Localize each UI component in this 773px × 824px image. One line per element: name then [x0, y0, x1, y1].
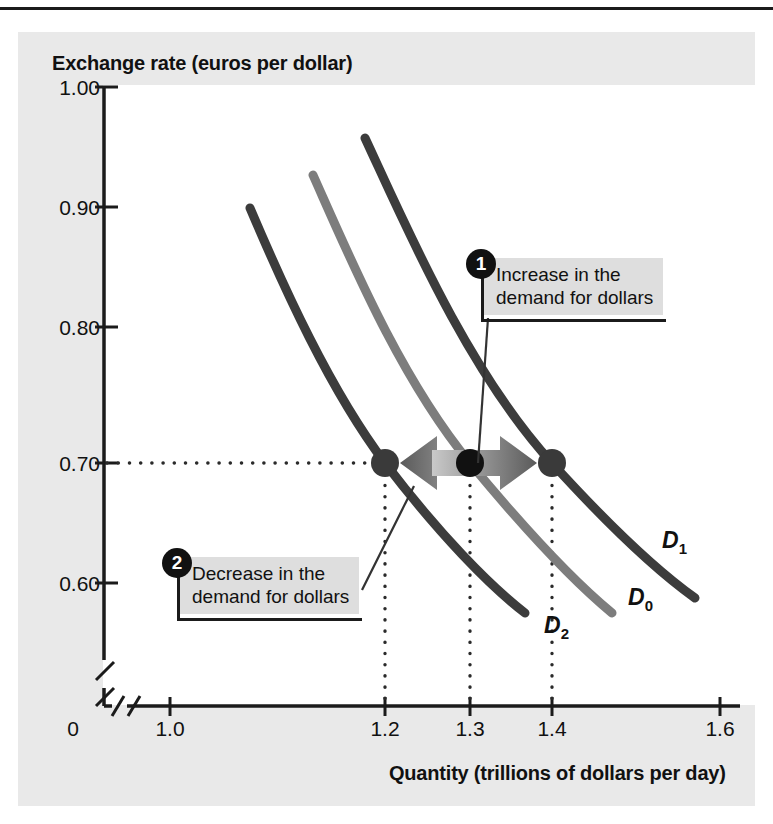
- demand-curve-d0: [313, 175, 612, 613]
- equilibrium-marker-d2: [371, 449, 399, 477]
- curve-label-d2: D2: [544, 612, 569, 642]
- curve-label-d2-sub: 2: [561, 625, 569, 642]
- callout-1-border-bottom: [481, 319, 666, 322]
- equilibrium-marker-d1: [538, 449, 566, 477]
- callout-1-line-2: demand for dollars: [496, 286, 653, 309]
- curve-label-d1-base: D: [662, 527, 679, 553]
- curve-label-d0: D0: [628, 584, 653, 614]
- callout-2-leader-line: [362, 486, 414, 590]
- y-axis-break-slash-1: [96, 662, 114, 680]
- callout-2-line-1: Decrease in the: [192, 562, 349, 585]
- chart-svg-layer: [0, 0, 773, 824]
- x-axis-break-slash-1: [112, 696, 124, 716]
- curve-label-d1: D1: [662, 527, 687, 557]
- callout-1-badge: 1: [466, 249, 496, 279]
- callout-2-line-2: demand for dollars: [192, 585, 349, 608]
- callout-1-box: Increase in the demand for dollars: [484, 258, 663, 315]
- curve-label-d2-base: D: [544, 612, 561, 638]
- equilibrium-marker-d0: [456, 449, 484, 477]
- callout-2-badge: 2: [162, 548, 192, 578]
- curve-label-d1-sub: 1: [679, 540, 687, 557]
- figure-container: Exchange rate (euros per dollar) Quantit…: [0, 0, 773, 824]
- callout-1-leader-line: [478, 318, 488, 463]
- curve-label-d0-base: D: [628, 584, 645, 610]
- callout-2-box: Decrease in the demand for dollars: [180, 557, 359, 614]
- callout-2-border-bottom: [177, 618, 362, 621]
- callout-1-line-1: Increase in the: [496, 263, 653, 286]
- curve-label-d0-sub: 0: [645, 597, 653, 614]
